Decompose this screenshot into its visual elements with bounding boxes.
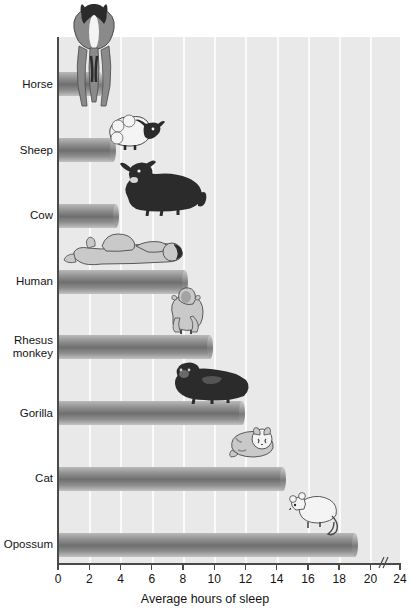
category-label-line: monkey	[1, 347, 53, 360]
gridline	[339, 37, 341, 563]
x-tick	[307, 563, 308, 570]
category-label-human: Human	[1, 275, 53, 288]
bar-rhesus-monkey	[58, 335, 210, 359]
x-tick	[370, 563, 371, 570]
x-tick-label: 4	[117, 572, 124, 586]
category-label-line: Cow	[1, 209, 53, 222]
x-tick	[276, 563, 277, 570]
category-label-cow: Cow	[1, 209, 53, 222]
x-tick	[120, 563, 121, 570]
monkey-illustration	[163, 286, 211, 336]
x-tick	[245, 563, 246, 570]
x-tick	[89, 563, 90, 570]
cow-illustration	[118, 158, 208, 216]
category-label-rhesus-monkey: Rhesusmonkey	[1, 334, 53, 360]
sleep-hours-bar-chart: HorseSheepCowHumanRhesusmonkeyGorillaCat…	[0, 0, 410, 614]
x-tick	[182, 563, 183, 570]
x-tick-label: 24	[393, 572, 406, 586]
category-axis-labels: HorseSheepCowHumanRhesusmonkeyGorillaCat…	[0, 37, 53, 563]
gorilla-illustration	[168, 358, 252, 404]
x-tick-label: 0	[55, 572, 62, 586]
category-label-line: Rhesus	[1, 334, 53, 347]
category-label-line: Opossum	[1, 538, 53, 551]
sheep-illustration	[105, 112, 165, 150]
x-tick	[399, 563, 400, 570]
category-label-cat: Cat	[1, 472, 53, 485]
x-tick-label: 20	[364, 572, 377, 586]
gridline	[308, 37, 310, 563]
x-axis-line	[58, 563, 400, 565]
category-label-sheep: Sheep	[1, 144, 53, 157]
human-illustration	[62, 228, 188, 272]
bar-cow	[58, 204, 116, 228]
category-label-line: Human	[1, 275, 53, 288]
x-tick	[214, 563, 215, 570]
bar-end-cap	[239, 401, 245, 425]
bar-end-cap	[207, 335, 213, 359]
category-label-line: Gorilla	[1, 407, 53, 420]
x-axis-title: Average hours of sleep	[0, 592, 410, 606]
x-tick-label: 12	[239, 572, 252, 586]
horse-illustration	[62, 2, 126, 110]
gridline	[370, 37, 372, 563]
x-tick-label: 6	[148, 572, 155, 586]
bar-cat	[58, 467, 283, 491]
cat-illustration	[228, 424, 278, 460]
x-tick	[338, 563, 339, 570]
category-label-line: Sheep	[1, 144, 53, 157]
category-label-gorilla: Gorilla	[1, 407, 53, 420]
bar-gorilla	[58, 401, 242, 425]
y-axis-line	[57, 37, 59, 564]
category-label-horse: Horse	[1, 78, 53, 91]
x-tick-label: 16	[301, 572, 314, 586]
category-label-line: Cat	[1, 472, 53, 485]
x-tick-label: 18	[332, 572, 345, 586]
x-tick-label: 14	[270, 572, 283, 586]
category-label-opossum: Opossum	[1, 538, 53, 551]
bar-end-cap	[352, 533, 358, 557]
bar-end-cap	[280, 467, 286, 491]
x-tick-label: 2	[86, 572, 93, 586]
x-tick-label: 8	[180, 572, 187, 586]
x-tick	[57, 563, 58, 570]
x-tick-label: 10	[208, 572, 221, 586]
category-label-line: Horse	[1, 78, 53, 91]
opossum-illustration	[288, 490, 352, 536]
x-tick	[151, 563, 152, 570]
bar-opossum	[58, 533, 355, 557]
